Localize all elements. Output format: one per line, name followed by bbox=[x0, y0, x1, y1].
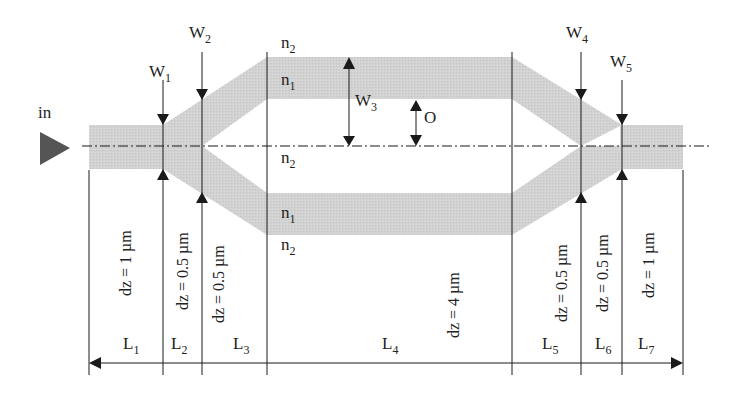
dz-label-3: dz = 0.5 µm bbox=[210, 245, 228, 323]
input-arrow-icon bbox=[40, 132, 70, 165]
offset-dimension bbox=[410, 100, 422, 146]
w1-label: W1 bbox=[149, 62, 171, 85]
dz-label-1: dz = 1 µm bbox=[117, 230, 135, 296]
arrow-right-icon bbox=[671, 357, 683, 369]
n2-top-label: n2 bbox=[281, 33, 296, 56]
l1-label: L1 bbox=[123, 334, 139, 357]
input-waveguide bbox=[89, 125, 165, 169]
input-label: in bbox=[38, 103, 52, 122]
l6-label: L6 bbox=[595, 334, 611, 357]
l2-label: L2 bbox=[171, 334, 187, 357]
w2-label: W2 bbox=[189, 23, 211, 46]
dz-label-6: dz = 0.5 µm bbox=[594, 234, 612, 312]
lower-arm bbox=[163, 146, 622, 235]
n2-bottom-label: n2 bbox=[281, 235, 296, 258]
l4-label: L4 bbox=[382, 334, 398, 357]
arrow-left-icon bbox=[89, 357, 101, 369]
w4-label: W4 bbox=[566, 23, 588, 46]
total-length-arrow bbox=[89, 357, 683, 369]
n2-center-label: n2 bbox=[281, 148, 296, 171]
dz-label-2: dz = 0.5 µm bbox=[174, 232, 192, 310]
mzi-diagram: in W1 W2 W3 W4 W5 O n2 n1 n2 n1 n2 dz = … bbox=[0, 0, 730, 393]
dz-label-4: dz = 4 µm bbox=[445, 272, 463, 338]
w5-label: W5 bbox=[610, 52, 632, 75]
dz-label-7: dz = 1 µm bbox=[640, 232, 658, 298]
upper-arm bbox=[163, 57, 622, 146]
l7-label: L7 bbox=[638, 334, 654, 357]
output-waveguide bbox=[620, 125, 683, 169]
offset-label: O bbox=[424, 108, 436, 127]
l5-label: L5 bbox=[542, 334, 558, 357]
dz-label-5: dz = 0.5 µm bbox=[553, 244, 571, 322]
l3-label: L3 bbox=[233, 334, 249, 357]
